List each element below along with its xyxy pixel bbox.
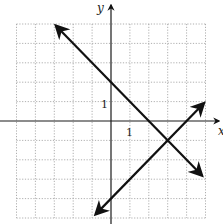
coordinate-plane: x y 1 1 <box>0 0 223 224</box>
line-increasing <box>96 104 204 215</box>
y-axis-label: y <box>96 1 104 15</box>
line-decreasing <box>56 26 202 175</box>
y-tick-label: 1 <box>101 98 108 111</box>
x-tick-label: 1 <box>126 126 133 139</box>
x-axis-label: x <box>218 124 223 138</box>
axes <box>0 5 219 224</box>
